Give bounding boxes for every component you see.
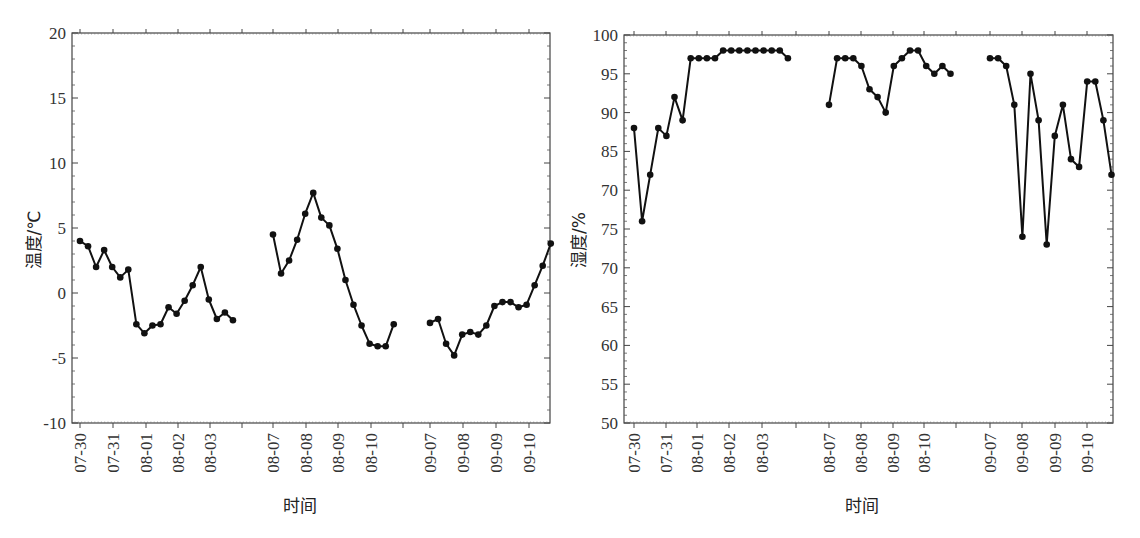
x-tick-label: 09-10 [1078, 433, 1097, 473]
data-point [222, 309, 229, 316]
data-point [294, 236, 301, 243]
y-tick-label: -5 [52, 349, 66, 368]
data-point [639, 218, 646, 225]
data-point [687, 55, 694, 62]
y-tick-label: -10 [43, 414, 66, 433]
plot-frame [624, 35, 1113, 423]
data-point [467, 329, 474, 336]
data-point [77, 238, 84, 245]
y-tick-label: 20 [49, 24, 66, 43]
x-tick-label: 08-07 [264, 433, 283, 473]
y-tick-label: 55 [601, 375, 618, 394]
data-point [334, 246, 341, 253]
data-point [1043, 241, 1050, 248]
y-tick-label: 100 [593, 26, 619, 45]
x-tick-label: 08-08 [297, 433, 316, 473]
data-point [286, 257, 293, 264]
data-point [939, 63, 946, 70]
data-point [326, 222, 333, 229]
x-tick-label: 07-31 [104, 433, 123, 473]
y-tick-label: 5 [58, 219, 67, 238]
data-point [834, 55, 841, 62]
data-point [85, 243, 92, 250]
y-tick-label: 70 [601, 181, 618, 200]
x-tick-label: 08-01 [137, 433, 156, 473]
data-point [302, 210, 309, 217]
data-point [947, 71, 954, 78]
y-tick-label: 90 [601, 104, 618, 123]
x-tick-label: 09-07 [421, 433, 440, 473]
data-point [866, 86, 873, 93]
y-tick-label: 95 [601, 65, 618, 84]
data-point [987, 55, 994, 62]
x-axis-title: 时间 [845, 496, 879, 516]
data-point [427, 320, 434, 327]
data-point [1068, 156, 1075, 163]
data-point [728, 47, 735, 54]
data-point [342, 277, 349, 284]
data-point [655, 125, 662, 132]
data-point [1003, 63, 1010, 70]
x-tick-label: 08-02 [169, 433, 188, 473]
data-point [1100, 117, 1107, 124]
data-point [101, 247, 108, 254]
data-point [197, 264, 204, 271]
y-tick-label: 70 [601, 259, 618, 278]
data-point [899, 55, 906, 62]
data-point [1035, 117, 1042, 124]
data-point [374, 343, 381, 350]
data-point [1084, 78, 1091, 85]
data-point [133, 321, 140, 328]
data-point [181, 298, 188, 305]
y-axis-title: 湿度/% [569, 212, 589, 268]
x-tick-label: 09-09 [487, 433, 506, 473]
data-point [459, 331, 466, 338]
data-point [995, 55, 1002, 62]
x-tick-label: 07-31 [657, 433, 676, 473]
data-point [499, 299, 506, 306]
data-point [507, 299, 514, 306]
data-point [931, 71, 938, 78]
data-point [720, 47, 727, 54]
data-point [451, 352, 458, 359]
data-point [671, 94, 678, 101]
data-point [189, 282, 196, 289]
data-point [1076, 164, 1083, 171]
data-point [647, 171, 654, 178]
data-point [736, 47, 743, 54]
data-point [165, 304, 172, 311]
data-point [874, 94, 881, 101]
data-point [390, 321, 397, 328]
data-point [278, 270, 285, 277]
x-tick-label: 08-07 [820, 433, 839, 473]
x-tick-label: 08-03 [201, 433, 220, 473]
data-point [1092, 78, 1099, 85]
data-point [214, 316, 221, 323]
data-point [157, 321, 164, 328]
x-tick-label: 09-08 [1013, 433, 1032, 473]
data-point [270, 231, 277, 238]
data-point [515, 304, 522, 311]
data-point [907, 47, 914, 54]
y-tick-label: 50 [601, 414, 618, 433]
y-tick-label: 85 [601, 142, 618, 161]
data-point [230, 317, 237, 324]
data-line [273, 193, 394, 346]
y-tick-label: 10 [49, 154, 66, 173]
data-point [350, 301, 357, 308]
data-point [744, 47, 751, 54]
data-point [1108, 171, 1115, 178]
data-line [634, 51, 788, 222]
data-point [826, 102, 833, 109]
data-point [109, 264, 116, 271]
data-line [990, 58, 1112, 244]
x-tick-label: 08-10 [915, 433, 934, 473]
x-tick-label: 09-07 [981, 433, 1000, 473]
y-tick-label: 65 [601, 298, 618, 317]
data-point [850, 55, 857, 62]
data-point [539, 262, 546, 269]
data-point [891, 63, 898, 70]
x-tick-label: 08-09 [329, 433, 348, 473]
x-tick-label: 08-01 [688, 433, 707, 473]
x-tick-label: 07-30 [625, 433, 644, 473]
